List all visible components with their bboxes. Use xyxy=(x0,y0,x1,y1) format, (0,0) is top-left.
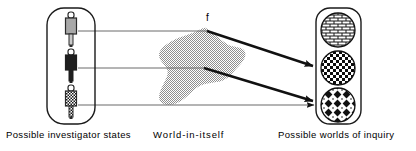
diagram-figure: f Possible investigator states World-in-… xyxy=(0,0,416,151)
caption-possible-investigator-states: Possible investigator states xyxy=(6,130,131,140)
caption-world-in-itself: World-in-itself xyxy=(153,130,224,140)
diamond-grid-circle-icon xyxy=(321,88,355,122)
brick-pattern-circle-icon xyxy=(321,13,355,47)
key-dark-icon xyxy=(66,49,77,83)
checkerboard-circle-icon xyxy=(321,51,355,85)
key-light-icon xyxy=(66,12,77,47)
key-hatched-icon xyxy=(66,85,77,119)
function-label-f: f xyxy=(206,12,209,23)
possible-worlds-of-inquiry-container xyxy=(316,8,361,124)
possible-investigator-states-container xyxy=(47,8,95,124)
caption-possible-worlds-of-inquiry: Possible worlds of inquiry xyxy=(278,130,394,140)
